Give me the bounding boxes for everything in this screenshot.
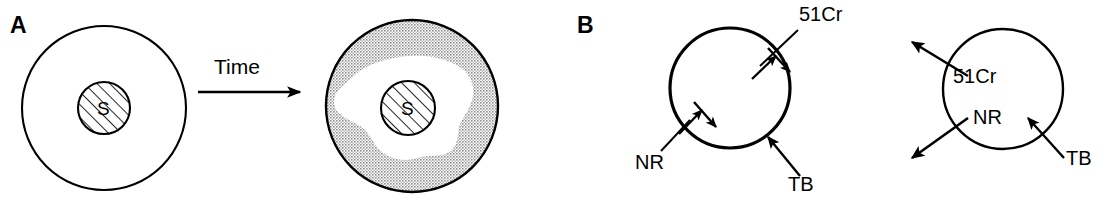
figure-container: A B Time 51Cr NR TB 51Cr NR TB S S <box>0 0 1104 216</box>
tb-pointer-arrow <box>768 137 800 176</box>
tb-label-influx: TB <box>788 174 814 194</box>
time-arrow-label: Time <box>214 56 260 77</box>
nr-label-influx: NR <box>635 152 664 172</box>
nr-leader-line <box>661 120 690 151</box>
cell-membrane-outline <box>670 28 790 148</box>
tb-label-efflux: TB <box>1066 148 1092 168</box>
panel-b-letter: B <box>577 14 594 37</box>
nucleus-label-before: S <box>97 99 110 118</box>
cr-label-influx: 51Cr <box>799 4 842 24</box>
cell-b-influx <box>661 28 800 176</box>
cell-membrane-outline <box>943 29 1063 149</box>
figure-canvas <box>0 0 1104 216</box>
nr-label-efflux: NR <box>973 107 1002 127</box>
nr-efflux-arrow <box>912 118 968 158</box>
cell-b-efflux <box>912 29 1064 158</box>
panel-a-letter: A <box>10 14 27 37</box>
cr-label-efflux: 51Cr <box>953 66 996 86</box>
nucleus-label-after: S <box>401 99 414 118</box>
